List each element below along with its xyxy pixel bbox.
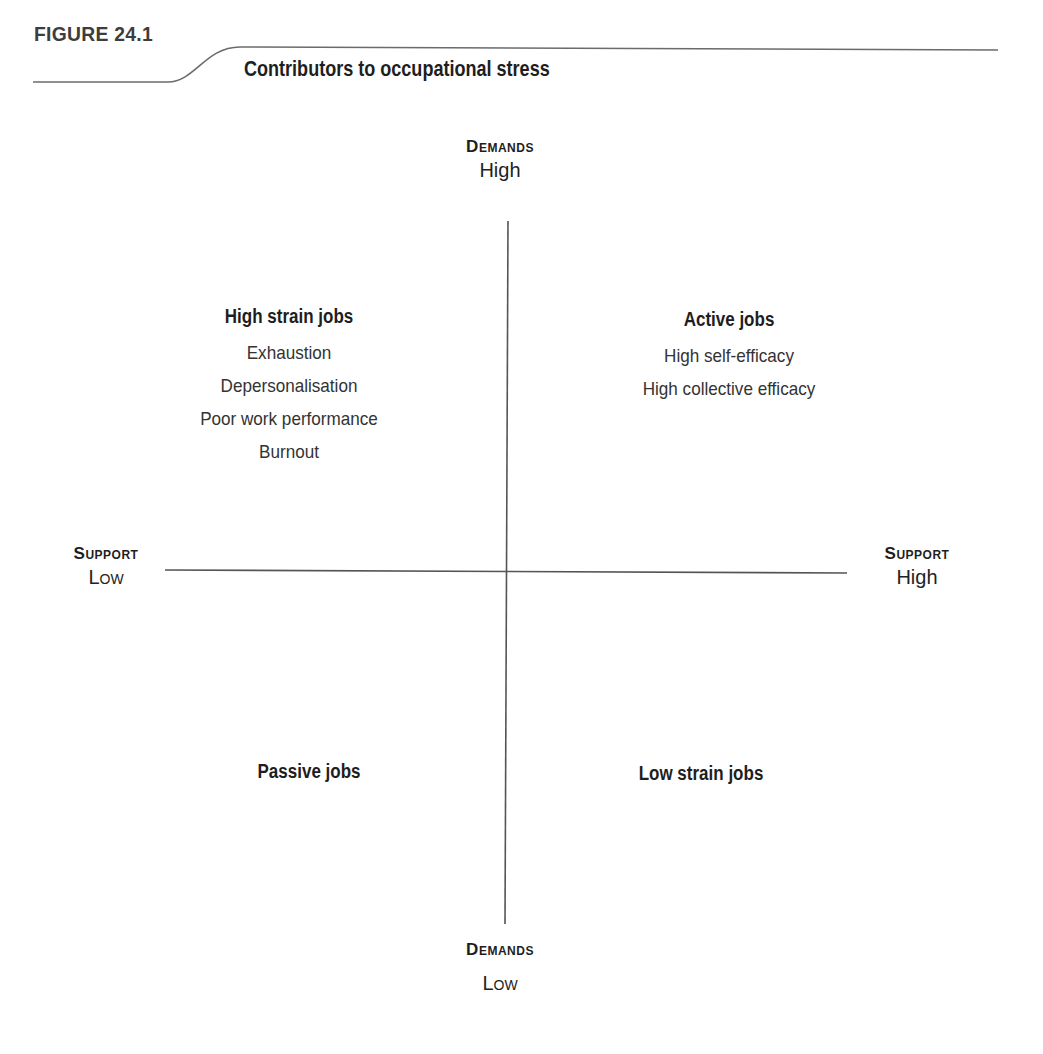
axis-label-top: Demands High <box>466 137 534 183</box>
quadrant-item: Depersonalisation <box>200 369 378 402</box>
quadrant-high-strain: High strain jobs Exhaustion Depersonalis… <box>190 302 387 468</box>
axis-name-support-left: Support <box>74 544 139 564</box>
axis-level-high: High <box>466 157 534 183</box>
axis-name-support-right: Support <box>885 544 950 564</box>
quadrant-title: High strain jobs <box>205 302 373 330</box>
vertical-axis-demands <box>505 221 508 924</box>
axis-label-right: Support High <box>885 544 950 590</box>
figure-title: Contributors to occupational stress <box>244 56 550 82</box>
quadrant-title: Passive jobs <box>257 757 360 785</box>
quadrant-item: High self-efficacy <box>643 339 816 372</box>
quadrant-item: Exhaustion <box>200 336 378 369</box>
quadrant-active: Active jobs High self-efficacy High coll… <box>633 305 825 405</box>
quadrant-item: High collective efficacy <box>643 372 816 405</box>
axis-label-left: Support Low <box>74 544 139 590</box>
quadrant-title: Active jobs <box>647 305 810 333</box>
axis-level-high-support: High <box>885 564 950 590</box>
quadrant-item: Burnout <box>200 435 378 468</box>
axis-level-low-support: Low <box>74 564 139 590</box>
quadrant-item: Poor work performance <box>200 402 378 435</box>
axis-label-bottom: Demands Low <box>466 940 534 996</box>
axis-level-low: Low <box>466 970 534 996</box>
quadrant-title: Low strain jobs <box>639 759 764 787</box>
axis-name-demands-bottom: Demands <box>466 940 534 960</box>
axis-name-demands-top: Demands <box>466 137 534 157</box>
quadrant-low-strain: Low strain jobs <box>628 759 775 787</box>
figure-number: FIGURE 24.1 <box>34 22 153 46</box>
quadrant-passive: Passive jobs <box>248 757 369 785</box>
